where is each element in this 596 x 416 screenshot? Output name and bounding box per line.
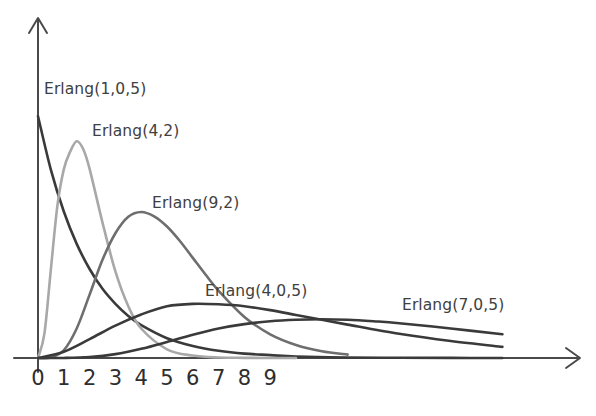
erlang-distribution-chart: 0123456789 Erlang(1,0,5)Erlang(4,2)Erlan… (0, 0, 596, 416)
curve-label-1: Erlang(1,0,5) (44, 82, 146, 98)
x-tick-label-9: 9 (255, 368, 285, 389)
chart-plot-area (0, 0, 596, 416)
curve-label-5: Erlang(7,0,5) (402, 298, 504, 314)
curve-label-3: Erlang(9,2) (152, 196, 239, 212)
curves-group (38, 116, 502, 358)
curve-label-4: Erlang(4,0,5) (205, 284, 307, 300)
curve-label-2: Erlang(4,2) (92, 124, 179, 140)
